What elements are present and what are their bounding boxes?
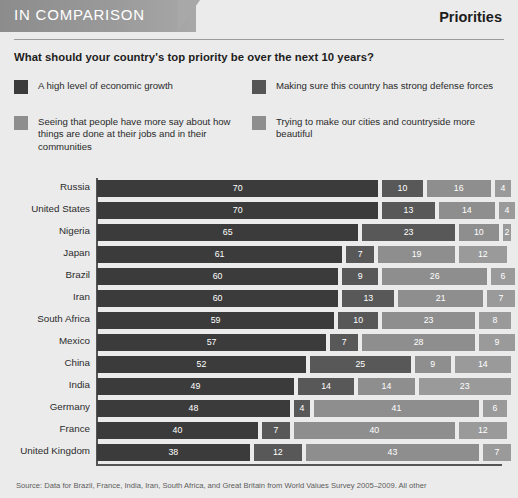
bar-segment: 14 [455, 356, 511, 373]
bar-segment: 6 [491, 268, 515, 285]
bar-segment: 38 [97, 444, 250, 461]
bar-segment: 2 [503, 224, 511, 241]
page-header: IN COMPARISON Priorities [0, 0, 518, 32]
bar-segment: 10 [338, 312, 378, 329]
header-divider [14, 39, 504, 40]
chart-row-label: Russia [0, 181, 90, 192]
chart-row: South Africa5910238 [0, 310, 518, 332]
bar-segment: 70 [97, 180, 378, 197]
bar-segment: 40 [97, 422, 258, 439]
chart-row: Japan6171912 [0, 244, 518, 266]
bar-segment: 9 [342, 268, 378, 285]
legend-item-say: Seeing that people have more say about h… [14, 116, 239, 153]
bar-segment: 65 [97, 224, 358, 241]
chart-row-label: Japan [0, 247, 90, 258]
bar-segment: 16 [427, 180, 491, 197]
bar-segment: 52 [97, 356, 306, 373]
bar-segment: 23 [419, 378, 511, 395]
bar-segment: 13 [382, 202, 434, 219]
bar-segment: 40 [294, 422, 455, 439]
bar-segment: 60 [97, 290, 338, 307]
legend-swatch-say-icon [14, 116, 28, 130]
legend-column-right: Making sure this country has strong defe… [252, 80, 508, 141]
legend-label-beauty: Trying to make our cities and countrysid… [276, 116, 475, 139]
bar-segment: 25 [310, 356, 411, 373]
chart-row: Germany484416 [0, 398, 518, 420]
bar-segment: 10 [459, 224, 499, 241]
chart-row: France4074012 [0, 420, 518, 442]
bar-segment: 10 [382, 180, 422, 197]
chart-row-label: United States [0, 203, 90, 214]
stacked-bar-chart: Russia7010164United States7013144Nigeria… [0, 176, 518, 468]
header-tab-label: IN COMPARISON [14, 6, 145, 23]
bar-segment: 14 [439, 202, 495, 219]
chart-row-label: Iran [0, 291, 90, 302]
bar-segment: 57 [97, 334, 326, 351]
chart-row: United States7013144 [0, 200, 518, 222]
chart-row: Mexico577289 [0, 332, 518, 354]
legend-label-growth: A high level of economic growth [38, 80, 173, 91]
chart-row: Iran6013217 [0, 288, 518, 310]
bar-segment: 49 [97, 378, 294, 395]
chart-row-label: France [0, 423, 90, 434]
chart-row: Nigeria6523102 [0, 222, 518, 244]
bar-segment: 14 [358, 378, 414, 395]
legend-label-say: Seeing that people have more say about h… [38, 116, 231, 152]
bar-segment: 70 [97, 202, 378, 219]
chart-row: Brazil609266 [0, 266, 518, 288]
chart-row-label: Brazil [0, 269, 90, 280]
bar-segment: 61 [97, 246, 342, 263]
chart-row-label: South Africa [0, 313, 90, 324]
chart-row: China5225914 [0, 354, 518, 376]
bar-segment: 4 [294, 400, 310, 417]
bar-segment: 60 [97, 268, 338, 285]
bar-segment: 12 [254, 444, 302, 461]
page-title: Priorities [439, 9, 502, 25]
chart-row: India49141423 [0, 376, 518, 398]
bar-segment: 7 [483, 444, 511, 461]
bar-segment: 12 [459, 246, 507, 263]
chart-row-label: China [0, 357, 90, 368]
bar-segment: 59 [97, 312, 334, 329]
chart-row-label: Nigeria [0, 225, 90, 236]
chart-row-label: Mexico [0, 335, 90, 346]
question-text: What should your country's top priority … [14, 51, 374, 63]
bar-segment: 19 [378, 246, 454, 263]
bar-segment: 13 [342, 290, 394, 307]
chart-row-label: United Kingdom [0, 445, 90, 456]
chart-row: Russia7010164 [0, 178, 518, 200]
bar-segment: 28 [362, 334, 475, 351]
chart-baseline [96, 464, 502, 466]
legend-column-left: A high level of economic growth Seeing t… [14, 80, 239, 153]
bar-segment: 8 [479, 312, 511, 329]
bar-segment: 23 [362, 224, 454, 241]
bar-segment: 43 [306, 444, 479, 461]
legend-swatch-growth-icon [14, 80, 28, 94]
legend-swatch-beauty-icon [252, 116, 266, 130]
bar-segment: 26 [382, 268, 487, 285]
bar-segment: 12 [459, 422, 507, 439]
bar-segment: 7 [330, 334, 358, 351]
legend-item-defense: Making sure this country has strong defe… [252, 80, 508, 98]
bar-segment: 14 [298, 378, 354, 395]
bar-segment: 23 [382, 312, 474, 329]
bar-segment: 9 [479, 334, 515, 351]
legend-item-growth: A high level of economic growth [14, 80, 239, 98]
bar-segment: 7 [262, 422, 290, 439]
bar-segment: 9 [415, 356, 451, 373]
header-tab-skew-decoration [178, 0, 200, 32]
bar-segment: 6 [483, 400, 507, 417]
bar-segment: 4 [499, 202, 515, 219]
bar-segment: 7 [346, 246, 374, 263]
bar-segment: 21 [398, 290, 482, 307]
bar-segment: 48 [97, 400, 290, 417]
source-note: Source: Data for Brazil, France, India, … [16, 481, 508, 491]
legend-swatch-defense-icon [252, 80, 266, 94]
bar-segment: 41 [314, 400, 479, 417]
chart-row: United Kingdom3812437 [0, 442, 518, 464]
legend-label-defense: Making sure this country has strong defe… [276, 80, 493, 91]
bar-segment: 4 [495, 180, 511, 197]
chart-row-label: Germany [0, 401, 90, 412]
bar-segment: 7 [487, 290, 515, 307]
legend-item-beauty: Trying to make our cities and countrysid… [252, 116, 508, 141]
